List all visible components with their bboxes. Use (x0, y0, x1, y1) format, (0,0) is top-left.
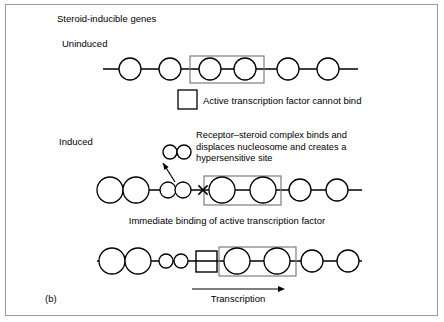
uninduced-nucleosome-3 (199, 58, 221, 80)
receptor-steroid-complex-circle-2 (177, 145, 191, 159)
bound-nucleosome-6 (264, 248, 290, 274)
bound-nucleosome-7 (301, 250, 323, 272)
legend-transcription-factor-square (178, 90, 197, 109)
induced-state-label: Induced (59, 136, 93, 147)
induced-nucleosome-5 (209, 177, 235, 203)
bound-nucleosome-1 (99, 248, 125, 274)
receptor-pointer-arrowhead (163, 163, 169, 170)
diagram-title: Steroid-inducible genes (57, 13, 157, 24)
induced-annotation-line-1: Receptor–steroid complex binds and (196, 130, 347, 140)
uninduced-state-label: Uninduced (62, 38, 107, 49)
uninduced-nucleosome-4 (234, 58, 256, 80)
steroid-inducible-genes-diagram: Steroid-inducible genes(b)UninducedActiv… (0, 0, 444, 322)
induced-nucleosome-3 (160, 182, 176, 198)
induced-nucleosome-7 (289, 179, 311, 201)
bound-nucleosome-5 (224, 248, 250, 274)
induced-nucleosome-1 (97, 177, 123, 203)
induced-nucleosome-6 (250, 177, 276, 203)
transcription-arrow-label: Transcription (211, 293, 266, 304)
figure-container: Steroid-inducible genes(b)UninducedActiv… (0, 0, 444, 322)
bound-nucleosome-2 (125, 248, 151, 274)
uninduced-caption: Active transcription factor cannot bind (203, 95, 361, 106)
uninduced-nucleosome-1 (119, 58, 141, 80)
uninduced-nucleosome-6 (317, 58, 339, 80)
figure-panel-label: (b) (45, 293, 57, 304)
bound-nucleosome-4 (174, 254, 188, 268)
bound-caption: Immediate binding of active transcriptio… (129, 215, 325, 226)
receptor-steroid-complex-circle-1 (163, 145, 177, 159)
uninduced-nucleosome-2 (159, 58, 181, 80)
uninduced-nucleosome-5 (277, 58, 299, 80)
induced-annotation-line-2: displaces nucleosome and creates a (196, 142, 347, 152)
induced-nucleosome-8 (326, 179, 348, 201)
bound-nucleosome-8 (337, 250, 359, 272)
induced-nucleosome-4 (175, 182, 191, 198)
bound-nucleosome-3 (159, 254, 173, 268)
induced-annotation-line-3: hypersensitive site (196, 153, 272, 163)
induced-nucleosome-2 (123, 177, 149, 203)
transcription-arrow-head (278, 286, 285, 292)
